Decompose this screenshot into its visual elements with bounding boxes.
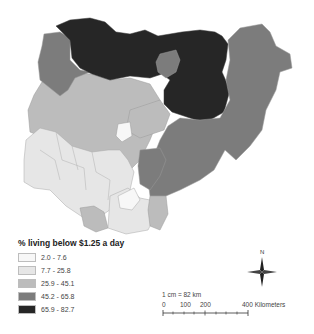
- legend-swatch: [18, 279, 36, 288]
- scale-tick-100: 100: [180, 301, 191, 308]
- legend-item: 7.7 - 25.8: [18, 264, 124, 277]
- legend: % living below $1.25 a day 2.0 - 7.6 7.7…: [18, 238, 124, 316]
- legend-label: 45.2 - 65.8: [41, 293, 74, 300]
- scale-tick-200: 200: [200, 301, 211, 308]
- scale-bar: 1 cm = 82 km 0 100 200 400 Kilometers: [162, 291, 302, 317]
- legend-label: 65.9 - 82.7: [41, 306, 74, 313]
- scale-tick-400: 400 Kilometers: [242, 301, 285, 308]
- legend-swatch: [18, 292, 36, 301]
- legend-title: % living below $1.25 a day: [18, 238, 124, 248]
- region-southeast: [148, 196, 168, 230]
- legend-item: 45.2 - 65.8: [18, 290, 124, 303]
- legend-swatch: [18, 305, 36, 314]
- scale-bar-graphic: [162, 310, 262, 316]
- legend-swatch: [18, 253, 36, 262]
- legend-label: 7.7 - 25.8: [41, 267, 71, 274]
- legend-item: 25.9 - 45.1: [18, 277, 124, 290]
- north-label: N: [260, 249, 264, 255]
- north-arrow: N: [244, 246, 280, 294]
- legend-label: 25.9 - 45.1: [41, 280, 74, 287]
- compass-rose-icon: N: [244, 246, 280, 290]
- scale-ratio: 1 cm = 82 km: [162, 291, 302, 298]
- legend-label: 2.0 - 7.6: [41, 254, 67, 261]
- scale-tick-0: 0: [162, 301, 166, 308]
- scale-tick-labels: 0 100 200 400 Kilometers: [162, 301, 302, 310]
- legend-item: 65.9 - 82.7: [18, 303, 124, 316]
- legend-swatch: [18, 266, 36, 275]
- legend-item: 2.0 - 7.6: [18, 251, 124, 264]
- choropleth-map: [0, 0, 314, 240]
